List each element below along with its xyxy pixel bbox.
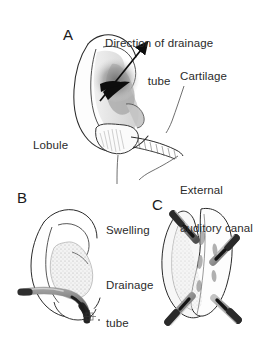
panel-letter-b: B — [17, 189, 27, 206]
label-drainage-tube: Drainage tube — [106, 254, 153, 342]
label-drainage-line1: Drainage — [106, 279, 153, 292]
label-direction-of-drainage-tube: Direction of drainage tube — [105, 12, 213, 100]
label-external-auditory-canal: External auditory canal — [180, 159, 253, 247]
label-cartilage: Cartilage — [180, 70, 227, 83]
label-drainage-line2: tube — [106, 317, 153, 330]
panel-letter-c: C — [152, 196, 163, 213]
panel-letter-a: A — [63, 26, 73, 43]
label-direction-line1: Direction of drainage — [105, 37, 213, 50]
label-swelling: Swelling — [106, 224, 150, 237]
label-lobule: Lobule — [33, 139, 68, 152]
label-eac-line1: External — [180, 184, 253, 197]
label-eac-line2: auditory canal — [180, 222, 253, 235]
